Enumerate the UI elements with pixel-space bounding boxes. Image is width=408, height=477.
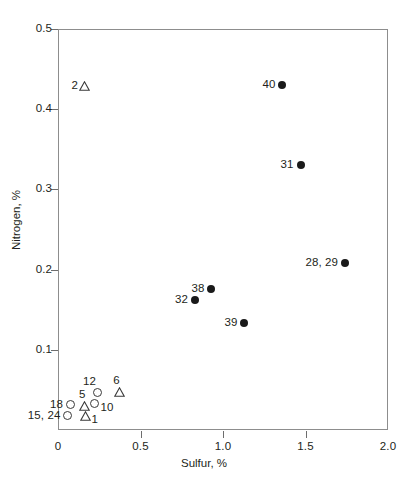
- x-axis-tick: [141, 431, 142, 438]
- x-axis-tick-label: 1.5: [286, 440, 326, 452]
- data-point-label: 1: [91, 413, 98, 425]
- open-triangle-marker-icon: [79, 401, 90, 411]
- x-axis-tick: [223, 431, 224, 438]
- y-axis-tick-label: 0.1: [12, 343, 52, 355]
- filled-circle-marker-icon: [191, 296, 199, 304]
- data-point-label: 15, 24: [28, 409, 61, 421]
- data-point-label: 6: [113, 374, 120, 386]
- y-axis-tick: [51, 29, 58, 30]
- open-circle-marker-icon: [66, 400, 75, 409]
- open-triangle-marker-icon: [80, 411, 91, 421]
- data-point-label: 38: [191, 282, 204, 294]
- y-axis-tick: [51, 189, 58, 190]
- plot-area: [58, 29, 388, 430]
- y-axis-tick-label: 0.4: [12, 102, 52, 114]
- data-point-label: 5: [79, 388, 86, 400]
- y-axis-tick: [51, 350, 58, 351]
- y-axis-title: Nitrogen, %: [10, 165, 22, 275]
- filled-circle-marker-icon: [297, 161, 305, 169]
- data-point-label: 40: [262, 78, 275, 90]
- x-axis-tick-label: 0.5: [121, 440, 161, 452]
- x-axis-title: Sulfur, %: [0, 457, 408, 469]
- x-axis-tick-label: 1.0: [203, 440, 243, 452]
- data-point-label: 2: [71, 79, 78, 91]
- x-axis-tick-label: 0: [38, 440, 78, 452]
- data-point-label: 32: [175, 293, 188, 305]
- data-point-label: 28, 29: [306, 256, 339, 268]
- data-point-label: 10: [100, 401, 113, 413]
- y-axis-tick-label: 0.5: [12, 22, 52, 34]
- data-point-label: 39: [224, 316, 237, 328]
- open-triangle-marker-icon: [79, 81, 90, 91]
- data-point-label: 31: [281, 158, 294, 170]
- scatter-plot-figure: 0.10.20.30.40.500.51.01.52.0 403128, 293…: [0, 0, 408, 477]
- y-axis-tick: [51, 270, 58, 271]
- open-triangle-marker-icon: [114, 387, 125, 397]
- y-axis-tick: [51, 109, 58, 110]
- data-point-label: 18: [50, 398, 63, 410]
- x-axis-tick-label: 2.0: [368, 440, 408, 452]
- x-axis-tick: [306, 431, 307, 438]
- data-point-label: 12: [83, 375, 96, 387]
